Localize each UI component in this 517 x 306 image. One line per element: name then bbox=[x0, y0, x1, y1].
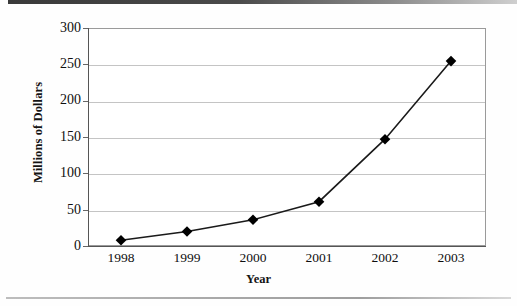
data-point-1999 bbox=[182, 226, 193, 237]
y-tick-label-300: 300 bbox=[37, 21, 81, 35]
data-point-1998 bbox=[116, 235, 127, 246]
x-tick-label-2000: 2000 bbox=[223, 250, 283, 266]
scan-edge-top bbox=[8, 0, 517, 4]
x-tick-label-1999: 1999 bbox=[157, 250, 217, 266]
x-tick-label-2001: 2001 bbox=[289, 250, 349, 266]
x-axis-title: Year bbox=[0, 272, 517, 287]
scan-edge-bottom bbox=[6, 297, 511, 299]
x-tick-label-2003: 2003 bbox=[421, 250, 481, 266]
y-tick-label-250: 250 bbox=[37, 57, 81, 71]
y-tick-label-200: 200 bbox=[37, 93, 81, 107]
y-tick-label-0: 0 bbox=[37, 239, 81, 253]
y-axis-tick-labels: 300 250 200 150 100 50 0 bbox=[33, 0, 81, 306]
series-polyline bbox=[121, 61, 451, 240]
y-tick-label-150: 150 bbox=[37, 130, 81, 144]
x-tick-label-1998: 1998 bbox=[91, 250, 151, 266]
y-tick-label-100: 100 bbox=[37, 166, 81, 180]
y-tick-label-50: 50 bbox=[37, 203, 81, 217]
x-tick-label-2002: 2002 bbox=[355, 250, 415, 266]
data-point-2000 bbox=[248, 215, 259, 226]
chart-figure: Millions of Dollars 300 250 200 150 100 … bbox=[0, 0, 517, 306]
data-series-line bbox=[88, 28, 486, 246]
series-markers bbox=[116, 56, 457, 246]
